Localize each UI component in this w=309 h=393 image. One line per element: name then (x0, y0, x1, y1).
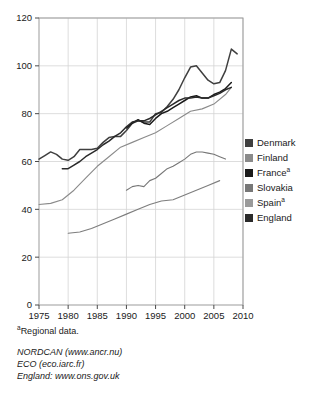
legend-label-france: Francea (257, 168, 290, 178)
svg-text:60: 60 (21, 156, 32, 167)
footnote-text: Regional data. (21, 326, 79, 336)
legend-item-finland[interactable]: Finland (245, 150, 309, 165)
source-nordcan: NORDCAN (www.ancr.nu) (17, 347, 297, 359)
svg-text:2000: 2000 (174, 310, 195, 320)
svg-text:80: 80 (21, 108, 32, 119)
figure-container: 0204060801001201975198019851990199520002… (0, 0, 309, 393)
legend-swatch-denmark (245, 139, 253, 147)
legend-label-finland: Finland (257, 153, 288, 163)
chart-legend: Denmark Finland Francea Slovakia Spaina … (245, 135, 309, 225)
source-england: England: www.ons.gov.uk (17, 371, 297, 383)
svg-text:120: 120 (16, 12, 32, 23)
svg-text:20: 20 (21, 252, 32, 263)
svg-text:0: 0 (27, 299, 32, 310)
legend-item-england[interactable]: England (245, 210, 309, 225)
legend-swatch-spain (245, 199, 253, 207)
svg-text:100: 100 (16, 60, 32, 71)
legend-label-denmark: Denmark (257, 138, 296, 148)
series-line-england (62, 87, 231, 168)
svg-text:1975: 1975 (28, 310, 49, 320)
source-list: NORDCAN (www.ancr.nu) ECO (eco.iarc.fr) … (17, 347, 297, 383)
legend-item-denmark[interactable]: Denmark (245, 135, 309, 150)
footnote-regional-data: aRegional data. (17, 326, 297, 337)
legend-item-spain[interactable]: Spaina (245, 195, 309, 210)
notes-block: aRegional data. NORDCAN (www.ancr.nu) EC… (17, 326, 297, 382)
svg-text:40: 40 (21, 204, 32, 215)
series-line-spain (68, 181, 220, 234)
svg-text:1990: 1990 (116, 310, 137, 320)
legend-swatch-england (245, 214, 253, 222)
legend-swatch-finland (245, 154, 253, 162)
legend-label-england: England (257, 213, 292, 223)
svg-text:1995: 1995 (145, 310, 166, 320)
legend-label-spain: Spaina (257, 198, 285, 208)
source-eco: ECO (eco.iarc.fr) (17, 359, 297, 371)
svg-text:2005: 2005 (203, 310, 224, 320)
legend-label-slovakia: Slovakia (257, 183, 293, 193)
legend-item-france[interactable]: Francea (245, 165, 309, 180)
legend-swatch-france (245, 169, 253, 177)
legend-swatch-slovakia (245, 184, 253, 192)
svg-text:2010: 2010 (232, 310, 253, 320)
svg-text:1980: 1980 (58, 310, 79, 320)
legend-item-slovakia[interactable]: Slovakia (245, 180, 309, 195)
svg-text:1985: 1985 (87, 310, 108, 320)
